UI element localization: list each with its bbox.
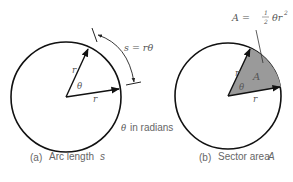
radians-text: in radians bbox=[130, 122, 173, 133]
caption-a-var: s bbox=[100, 151, 105, 162]
radius-label-right-a: r bbox=[93, 94, 98, 104]
caption-b-text: Sector area bbox=[218, 151, 270, 162]
caption-b-var: A bbox=[267, 151, 275, 162]
caption-a: (a) Arc length s bbox=[30, 151, 105, 163]
caption-b: (b) Sector area A bbox=[199, 151, 275, 163]
angle-label-b: θ bbox=[239, 82, 244, 92]
radians-note: θ in radians bbox=[121, 122, 173, 133]
area-formula: A = 1 2 θr 2 bbox=[231, 9, 288, 25]
panel-b-sector-area: r θ r A A = 1 2 θr 2 (b) Sector area A bbox=[175, 9, 288, 163]
arc-length-formula: s = rθ bbox=[124, 42, 153, 53]
area-formula-denominator: 2 bbox=[263, 18, 268, 25]
caption-b-tag: (b) bbox=[199, 152, 211, 163]
arc-tick-upper bbox=[92, 28, 97, 42]
radius-label-upper-a: r bbox=[72, 65, 77, 75]
area-label: A bbox=[252, 71, 260, 82]
angle-label-a: θ bbox=[77, 81, 82, 91]
caption-a-tag: (a) bbox=[30, 152, 42, 163]
area-formula-lhs: A = bbox=[231, 12, 250, 23]
radius-label-right-b: r bbox=[253, 94, 258, 104]
arc-tick-lower bbox=[126, 82, 141, 85]
area-formula-exponent: 2 bbox=[283, 9, 288, 16]
panel-a-arc-length: r θ r s = rθ θ in radians (a) Arc length… bbox=[11, 28, 173, 163]
radius-label-upper-b: r bbox=[235, 68, 240, 78]
area-formula-rhs: θr bbox=[272, 12, 284, 23]
area-formula-numerator: 1 bbox=[264, 9, 268, 16]
caption-a-text: Arc length bbox=[49, 151, 94, 162]
radians-theta: θ bbox=[121, 123, 126, 133]
figure-canvas: r θ r s = rθ θ in radians (a) Arc length… bbox=[0, 0, 293, 182]
